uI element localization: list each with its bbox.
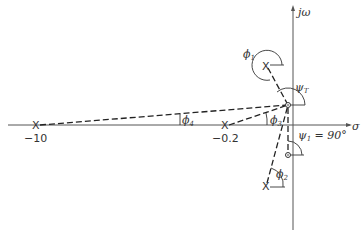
jomega-label: jω <box>295 6 310 19</box>
phi3-label: ϕ3 <box>270 114 283 128</box>
psiT-label: ψT <box>295 81 310 95</box>
phi3-arc <box>266 113 267 125</box>
sigma-label: σ <box>352 120 360 133</box>
pole-far-marker: X <box>32 119 40 132</box>
vector-from-minus10 <box>40 105 288 125</box>
pole-lower-marker: X <box>262 180 270 193</box>
vector-from-upper-pole <box>268 68 288 105</box>
phi1-label: ϕ1 <box>243 48 255 62</box>
test-point-dot <box>287 104 289 106</box>
pole-upper-marker: X <box>262 60 270 73</box>
pole-near-marker: X <box>221 119 229 132</box>
root-locus-diagram: σ jω X X X X −10 −0.2 <box>0 0 362 234</box>
pole-near-label: −0.2 <box>212 132 239 145</box>
pole-far-label: −10 <box>24 132 47 145</box>
zero-dot <box>287 154 289 156</box>
phi4-label: ϕ4 <box>182 114 194 128</box>
phi2-label: ϕ2 <box>276 168 289 182</box>
imag-axis-arrow-icon <box>291 5 295 11</box>
psi1-label: ψ1 = 90° <box>298 129 347 143</box>
